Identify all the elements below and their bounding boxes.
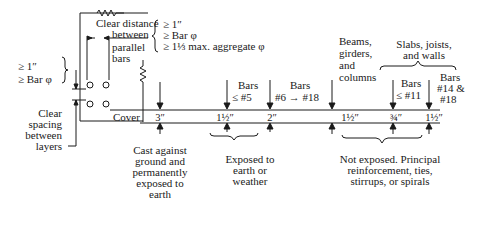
cond-bars-6-a: Bars [290, 80, 310, 91]
cover-value-bars-5: 1½″ [213, 112, 237, 123]
cond-beams-2: girders, [339, 48, 372, 59]
cond-beams-3: and [339, 60, 355, 71]
layer-label-4: layers [10, 141, 62, 152]
cover-value-beams: 1½″ [338, 112, 362, 123]
cond-bars-11-b: ≤ #11 [396, 90, 421, 101]
cond-bars-6-b: #6 → #18 [275, 92, 319, 103]
layer-req-bar: ≥ Bar φ [18, 74, 52, 85]
clear-distance-label-4: bars [112, 53, 130, 64]
layer-req-1in: ≥ 1″ [18, 61, 37, 72]
cover-value-cast: 3″ [148, 112, 172, 123]
cover-label: Cover [113, 112, 140, 123]
clear-distance-label-2: between [112, 29, 149, 40]
cond-beams-4: columns [339, 72, 376, 83]
cover-value-slabs-14-18: 1½″ [422, 112, 446, 123]
exposed-label-3: weather [208, 176, 292, 187]
cond-bars-5-b: ≤ #5 [232, 92, 252, 103]
slabs-label-2: and walls [370, 50, 478, 61]
req-aggregate: ≥ 1⅓ max. aggregate φ [163, 41, 265, 52]
cover-value-slabs-11: ¾″ [384, 112, 408, 123]
cast-label-5: earth [118, 189, 202, 200]
cond-bars-5-a: Bars [238, 80, 258, 91]
cond-bars-14-c: #18 [440, 94, 457, 105]
not-exposed-label-3: stirrups, or spirals [320, 176, 460, 187]
cond-beams-1: Beams, [339, 36, 372, 47]
cover-value-bars-6-18: 2″ [260, 112, 284, 123]
cond-bars-11-a: Bars [401, 78, 421, 89]
